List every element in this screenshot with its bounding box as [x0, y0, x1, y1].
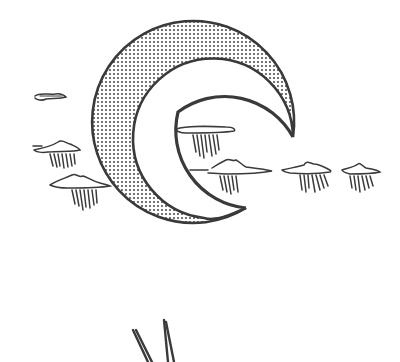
rain-cloud-icon — [176, 126, 235, 158]
moon-illustration — [0, 0, 400, 362]
rain-cloud-icon — [33, 141, 80, 168]
cloud-icon — [35, 94, 66, 100]
rain-cloud-icon — [282, 162, 331, 192]
crescent-moon-icon — [92, 21, 294, 223]
rain-cloud-icon — [50, 175, 110, 210]
partial-figure-icon — [133, 320, 174, 362]
rain-cloud-icon — [342, 163, 380, 192]
